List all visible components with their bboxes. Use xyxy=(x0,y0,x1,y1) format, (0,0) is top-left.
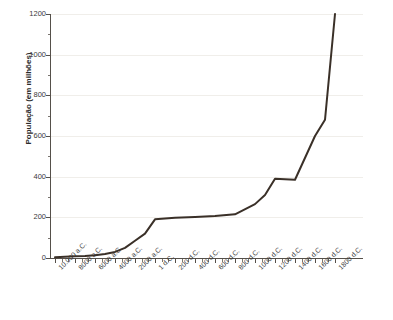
y-tick-label: 400 xyxy=(6,173,46,181)
x-tick-mark xyxy=(295,259,296,263)
population-line-chart: População (em milhões) 02004006008001000… xyxy=(0,0,393,320)
x-tick-mark xyxy=(155,259,156,263)
x-tick-mark xyxy=(255,259,256,263)
gridline xyxy=(51,95,363,96)
gridline xyxy=(51,136,363,137)
x-tick-mark xyxy=(335,259,336,263)
plot-area xyxy=(51,14,363,258)
y-tick-mark xyxy=(46,217,50,218)
y-tick-label: 1000 xyxy=(6,51,46,59)
y-minor-tick-mark xyxy=(48,75,50,76)
y-tick-label: 200 xyxy=(6,213,46,221)
y-tick-label: 0 xyxy=(6,254,46,262)
chart-title xyxy=(0,0,393,4)
y-tick-label: 600 xyxy=(6,132,46,140)
y-tick-mark xyxy=(46,177,50,178)
x-tick-mark xyxy=(215,259,216,263)
y-tick-mark xyxy=(46,136,50,137)
y-tick-mark xyxy=(46,14,50,15)
x-tick-mark xyxy=(135,259,136,263)
gridline xyxy=(51,217,363,218)
y-tick-mark xyxy=(46,95,50,96)
y-minor-tick-mark xyxy=(48,156,50,157)
gridline xyxy=(51,177,363,178)
x-tick-mark xyxy=(95,259,96,263)
gridline xyxy=(51,14,363,15)
x-tick-mark xyxy=(315,259,316,263)
y-minor-tick-mark xyxy=(48,238,50,239)
y-minor-tick-mark xyxy=(48,197,50,198)
x-tick-mark xyxy=(195,259,196,263)
gridline xyxy=(51,55,363,56)
y-tick-label: 1200 xyxy=(6,10,46,18)
x-tick-mark xyxy=(235,259,236,263)
x-tick-mark xyxy=(175,259,176,263)
x-tick-mark xyxy=(115,259,116,263)
y-minor-tick-mark xyxy=(48,34,50,35)
y-tick-mark xyxy=(46,55,50,56)
x-tick-mark xyxy=(75,259,76,263)
x-tick-mark xyxy=(55,259,56,263)
y-tick-mark xyxy=(46,258,50,259)
y-tick-label: 800 xyxy=(6,91,46,99)
y-minor-tick-mark xyxy=(48,116,50,117)
x-tick-mark xyxy=(275,259,276,263)
y-axis-line xyxy=(50,14,51,259)
